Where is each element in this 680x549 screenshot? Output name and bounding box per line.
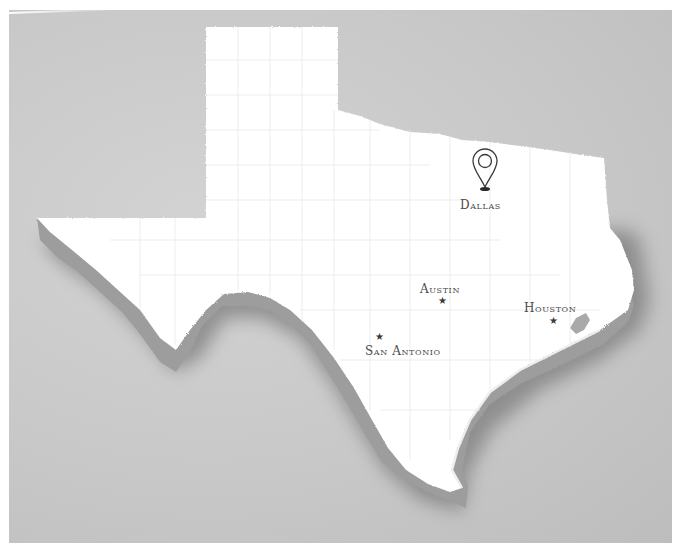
texas-land <box>37 27 634 492</box>
star-icon[interactable]: ★ <box>438 296 447 306</box>
city-label-dallas: Dallas <box>460 199 501 211</box>
city-label-san-antonio: San Antonio <box>365 345 441 357</box>
city-label-austin: Austin <box>420 283 460 295</box>
star-icon[interactable]: ★ <box>549 316 558 326</box>
texas-map <box>0 0 680 549</box>
star-icon[interactable]: ★ <box>375 332 384 342</box>
city-label-houston: Houston <box>524 302 576 314</box>
